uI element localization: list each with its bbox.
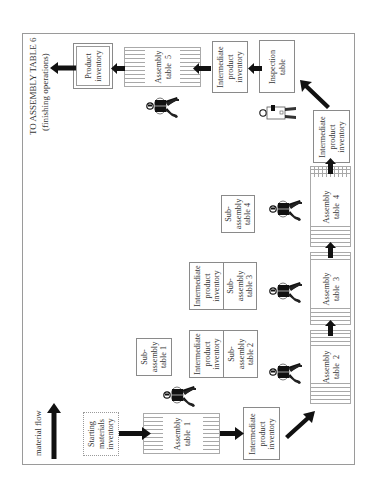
flow-arrow-icon: [325, 158, 336, 174]
intermediate-inventory-2-label: Intermediate product inventory: [192, 333, 221, 374]
assembly-table-4-label: Assembly table 4: [321, 190, 340, 223]
subassembly-table-2-box: Intermediate product inventory Sub- asse…: [189, 330, 258, 378]
assembly-table-1-label: Assembly table 1: [172, 417, 191, 450]
worker-icon: [268, 200, 304, 222]
worker-icon: [268, 363, 304, 385]
flow-arrow-icon: [325, 320, 336, 336]
flow-arrow-icon: [117, 427, 151, 440]
subassembly-table-1-label: Sub- assembly table 1: [140, 342, 169, 372]
title-line-1: TO ASSEMBLY TABLE 6: [28, 38, 39, 135]
flow-arrow-icon: [325, 242, 336, 258]
subassembly-table-2-label: Sub- assembly table 2: [226, 339, 255, 369]
assembly-table-1-box: Assembly table 1: [143, 413, 220, 454]
starting-inventory-label: Starting materials inventory: [87, 418, 116, 449]
subassembly-table-4-label: Sub- assembly table 4: [224, 199, 253, 229]
up-arrow-icon: [47, 403, 61, 459]
diagonal-flow-arrow-icon: [285, 410, 317, 440]
assembly-table-2-box: Assembly table 2: [310, 330, 351, 404]
product-inventory-label: Product inventory: [84, 50, 103, 81]
flow-arrow-icon: [111, 63, 125, 74]
arrow-to-table-6-icon: [50, 62, 76, 74]
inspection-table-box: Inspection table: [259, 40, 295, 93]
assembly-table-4-box: Assembly table 4: [310, 166, 351, 247]
assembly-table-3-box: Assembly table 3: [310, 252, 351, 325]
worker-icon: [145, 97, 181, 119]
subassembly-table-3-box: Intermediate product inventory Sub- asse…: [189, 262, 257, 310]
inspector-icon: [258, 104, 298, 122]
assembly-table-5-label: Assembly table 5: [153, 51, 172, 84]
starting-inventory-box: Starting materials inventory: [83, 412, 119, 456]
intermediate-inventory-5-box: Intermediate product inventory: [212, 41, 248, 93]
worker-icon: [268, 282, 304, 304]
intermediate-inventory-4-box: Intermediate product inventory: [313, 110, 350, 163]
intermediate-inventory-5-label: Intermediate product inventory: [216, 46, 245, 87]
assembly-table-5-box: Assembly table 5: [124, 47, 201, 87]
product-inventory-box: Product inventory: [73, 43, 113, 89]
intermediate-inventory-4-label: Intermediate product inventory: [317, 116, 346, 157]
diagonal-flow-arrow-icon: [298, 78, 332, 110]
assembly-table-2-label: Assembly table 2: [321, 351, 340, 384]
assembly-table-3-label: Assembly table 3: [321, 272, 340, 305]
inspection-table-label: Inspection table: [268, 49, 287, 83]
legend-label: material flow: [33, 410, 44, 456]
subassembly-table-4-box: Sub- assembly table 4: [221, 195, 255, 233]
intermediate-inventory-1-label: Intermediate product inventory: [247, 413, 276, 454]
intermediate-inventory-3-label: Intermediate product inventory: [192, 265, 221, 306]
flow-arrow-icon: [248, 63, 262, 74]
subassembly-table-3-label: Sub- assembly table 3: [226, 271, 255, 301]
subassembly-table-1-box: Sub- assembly table 1: [136, 338, 172, 376]
flow-arrow-icon: [193, 63, 211, 74]
worker-icon: [162, 386, 198, 408]
intermediate-inventory-1-box: Intermediate product inventory: [243, 407, 280, 460]
